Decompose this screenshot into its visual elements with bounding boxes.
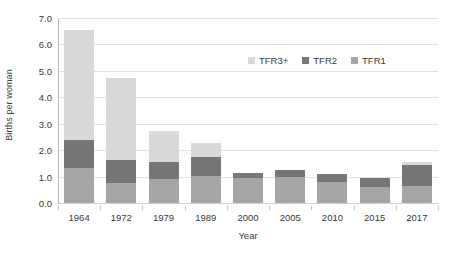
legend-swatch-icon — [302, 57, 309, 64]
x-axis-tick-label: 1964 — [69, 212, 90, 223]
y-axis-title-text: Births per woman — [4, 69, 14, 141]
bar-segment-tfr3plus[interactable] — [191, 143, 221, 157]
y-axis-tick-label: 2.0 — [39, 145, 52, 156]
bar-segment-tfr1[interactable] — [106, 183, 136, 203]
bar-series-container — [58, 18, 438, 203]
bar-segment-tfr1[interactable] — [402, 186, 432, 203]
bar-group[interactable] — [233, 18, 263, 203]
bar-group[interactable] — [402, 18, 432, 203]
x-axis-tick-label: 1989 — [195, 212, 216, 223]
bar-group[interactable] — [106, 18, 136, 203]
bar-segment-tfr2[interactable] — [149, 162, 179, 179]
bar-group[interactable] — [64, 18, 94, 203]
bar-segment-tfr1[interactable] — [191, 176, 221, 203]
legend-swatch-icon — [248, 57, 255, 64]
x-axis-tick-mark — [311, 206, 312, 210]
bar-group[interactable] — [360, 18, 390, 203]
plot-area — [58, 18, 438, 203]
x-axis-tick-mark — [227, 206, 228, 210]
bar-group[interactable] — [317, 18, 347, 203]
x-axis-tick-mark — [438, 206, 439, 210]
bar-segment-tfr3plus[interactable] — [106, 78, 136, 160]
y-axis-tick-label: 0.0 — [39, 198, 52, 209]
y-axis-tick-label: 5.0 — [39, 65, 52, 76]
x-axis-tick-label: 1979 — [153, 212, 174, 223]
x-axis-tick-label: 2005 — [280, 212, 301, 223]
y-axis-tick-label: 7.0 — [39, 13, 52, 24]
y-axis-title: Births per woman — [0, 0, 18, 210]
bar-segment-tfr2[interactable] — [233, 173, 263, 179]
bar-group[interactable] — [191, 18, 221, 203]
x-axis-tick-label: 2015 — [364, 212, 385, 223]
x-axis-tick-label: 2017 — [406, 212, 427, 223]
legend-label: TFR1 — [362, 55, 386, 66]
chart-legend: TFR3+TFR2TFR1 — [248, 55, 386, 66]
bar-segment-tfr2[interactable] — [360, 178, 390, 186]
bar-segment-tfr3plus[interactable] — [402, 162, 432, 165]
bar-segment-tfr2[interactable] — [64, 140, 94, 168]
y-axis-tick-label: 4.0 — [39, 92, 52, 103]
bar-segment-tfr1[interactable] — [275, 177, 305, 203]
x-axis-tick-label: 2010 — [322, 212, 343, 223]
bar-group[interactable] — [275, 18, 305, 203]
legend-item-tfr1[interactable]: TFR1 — [351, 55, 386, 66]
gridline — [58, 203, 438, 204]
y-axis-tick-labels: 0.01.02.03.04.05.06.07.0 — [18, 18, 56, 203]
x-axis-tick-mark — [354, 206, 355, 210]
x-axis-tick-mark — [185, 206, 186, 210]
legend-swatch-icon — [351, 57, 358, 64]
bar-segment-tfr1[interactable] — [64, 168, 94, 203]
x-axis-title: Year — [58, 230, 438, 241]
bar-group[interactable] — [149, 18, 179, 203]
x-axis-tick-mark — [100, 206, 101, 210]
y-axis-tick-label: 6.0 — [39, 39, 52, 50]
bar-segment-tfr1[interactable] — [149, 179, 179, 203]
legend-label: TFR3+ — [259, 55, 288, 66]
bar-segment-tfr2[interactable] — [106, 160, 136, 184]
x-axis-tick-mark — [58, 206, 59, 210]
bar-segment-tfr1[interactable] — [360, 187, 390, 203]
bar-segment-tfr2[interactable] — [191, 157, 221, 176]
chart-figure: Births per woman 0.01.02.03.04.05.06.07.… — [0, 0, 458, 260]
bar-segment-tfr1[interactable] — [317, 182, 347, 203]
legend-item-tfr3plus[interactable]: TFR3+ — [248, 55, 288, 66]
bar-segment-tfr3plus[interactable] — [64, 30, 94, 140]
legend-label: TFR2 — [313, 55, 337, 66]
x-axis-tick-mark — [142, 206, 143, 210]
bar-segment-tfr2[interactable] — [402, 165, 432, 187]
bar-segment-tfr1[interactable] — [233, 178, 263, 203]
x-axis-tick-labels: 196419721979198920002005201020152017 — [58, 206, 438, 224]
bar-segment-tfr2[interactable] — [317, 174, 347, 182]
bar-segment-tfr3plus[interactable] — [149, 131, 179, 163]
y-axis-tick-label: 3.0 — [39, 118, 52, 129]
bar-segment-tfr2[interactable] — [275, 170, 305, 177]
legend-item-tfr2[interactable]: TFR2 — [302, 55, 337, 66]
x-axis-tick-mark — [269, 206, 270, 210]
x-axis-tick-label: 2000 — [237, 212, 258, 223]
x-axis-tick-mark — [396, 206, 397, 210]
y-axis-tick-label: 1.0 — [39, 171, 52, 182]
x-axis-tick-label: 1972 — [111, 212, 132, 223]
